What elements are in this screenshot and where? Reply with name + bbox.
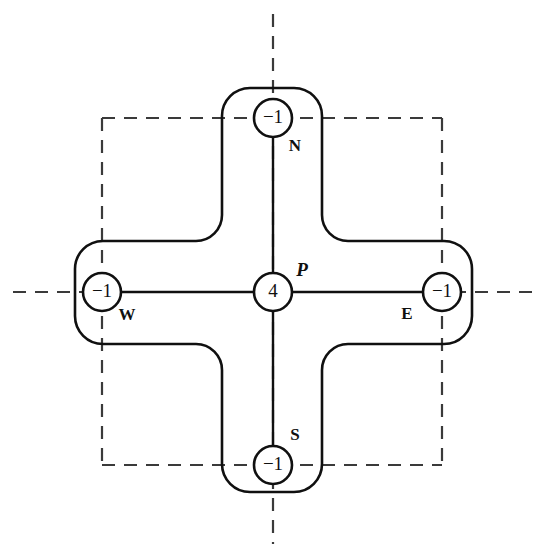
stencil-node-p[interactable]: 4P [254,259,308,311]
stencil-node-s[interactable]: −1S [254,425,300,484]
node-value-s: −1 [263,453,283,474]
node-label-s: S [290,425,299,444]
node-label-e: E [401,304,412,323]
stencil-node-w[interactable]: −1W [83,273,136,324]
stencil-node-n[interactable]: −1N [254,99,302,155]
node-value-w: −1 [92,280,112,301]
node-label-w: W [119,305,136,324]
node-value-n: −1 [263,106,283,127]
stencil-figure: 4P−1N−1W−1E−1S [0,0,546,558]
node-value-e: −1 [432,280,452,301]
node-label-n: N [289,136,302,155]
node-label-p: P [295,259,308,280]
stencil-node-e[interactable]: −1E [401,273,461,323]
node-value-p: 4 [268,280,278,301]
